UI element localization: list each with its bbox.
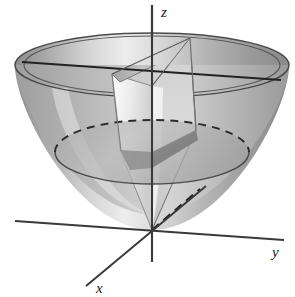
z-axis-label: z [160,4,167,20]
paraboloid-diagram: z y x [0,0,295,297]
figure-root: z y x [0,0,295,297]
y-axis-label: y [270,244,279,260]
x-axis-label: x [95,280,103,296]
